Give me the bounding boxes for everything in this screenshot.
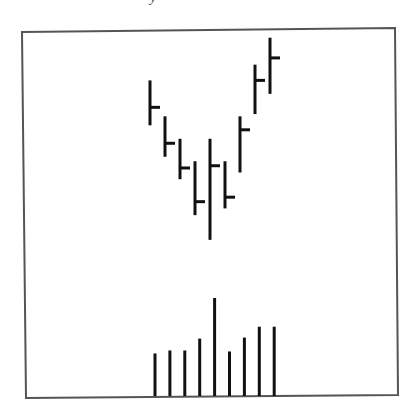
price-bar (240, 116, 250, 172)
price-bar (180, 139, 190, 179)
price-bar (165, 116, 175, 156)
price-bar (225, 161, 235, 208)
price-volume-chart (0, 0, 407, 411)
price-bars (150, 38, 280, 240)
price-bar (210, 139, 220, 240)
price-bar (255, 65, 265, 114)
price-bar (150, 80, 160, 125)
price-bar (195, 161, 205, 215)
volume-bars (155, 298, 274, 396)
price-bar (270, 38, 280, 94)
